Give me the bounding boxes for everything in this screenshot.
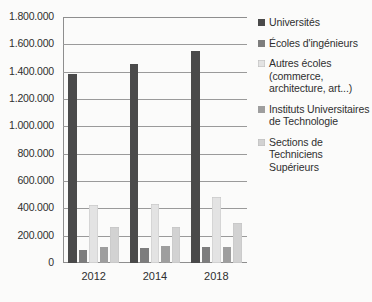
y-axis-tick-label: 0 <box>0 256 54 268</box>
bar-group-2014 <box>124 17 185 263</box>
bar <box>130 64 139 263</box>
y-axis-tick-label: 800.000 <box>0 147 54 159</box>
bar <box>172 227 181 263</box>
bar <box>223 247 232 263</box>
bar <box>110 227 119 263</box>
bar <box>79 250 88 263</box>
bar <box>202 247 211 263</box>
legend-item[interactable]: Écoles d'ingénieurs <box>258 37 370 50</box>
bar <box>68 74 77 263</box>
bar <box>140 248 149 263</box>
plot-area <box>63 17 247 263</box>
legend-label: Instituts Universitaires de Technologie <box>269 103 370 128</box>
legend-label: Écoles d'ingénieurs <box>269 37 358 50</box>
legend-swatch-icon <box>258 19 265 26</box>
bar <box>100 247 109 263</box>
legend-swatch-icon <box>258 40 265 47</box>
legend-item[interactable]: Sections de Techniciens Supérieurs <box>258 136 370 174</box>
x-axis-tick-label: 2012 <box>64 270 124 282</box>
legend-item[interactable]: Universités <box>258 16 370 29</box>
legend-label: Autres écoles (commerce, architecture, a… <box>269 57 370 95</box>
y-axis-tick-label: 600.000 <box>0 174 54 186</box>
bar <box>89 205 98 263</box>
chart-page: 1.800.0001.600.0001.400.0001.200.0001.00… <box>0 0 372 302</box>
chart-legend: UniversitésÉcoles d'ingénieursAutres éco… <box>258 16 370 181</box>
legend-item[interactable]: Instituts Universitaires de Technologie <box>258 103 370 128</box>
bar <box>161 246 170 263</box>
y-axis-tick-label: 400.000 <box>0 201 54 213</box>
x-axis-tick-label: 2014 <box>125 270 185 282</box>
legend-label: Sections de Techniciens Supérieurs <box>269 136 370 174</box>
bar-group-2018 <box>186 17 247 263</box>
legend-swatch-icon <box>258 60 265 67</box>
y-axis-tick-label: 1.200.000 <box>0 92 54 104</box>
bar <box>233 223 242 263</box>
y-axis-tick-label: 200.000 <box>0 229 54 241</box>
y-axis-tick-label: 1.000.000 <box>0 119 54 131</box>
y-axis-tick-label: 1.400.000 <box>0 65 54 77</box>
bar <box>212 197 221 263</box>
legend-label: Universités <box>269 16 320 29</box>
legend-swatch-icon <box>258 106 265 113</box>
x-axis-tick-label: 2018 <box>186 270 246 282</box>
y-axis-tick-label: 1.600.000 <box>0 37 54 49</box>
bar <box>151 204 160 263</box>
bar <box>191 51 200 263</box>
bar-group-2012 <box>63 17 124 263</box>
y-axis-tick-label: 1.800.000 <box>0 10 54 22</box>
legend-item[interactable]: Autres écoles (commerce, architecture, a… <box>258 57 370 95</box>
legend-swatch-icon <box>258 139 265 146</box>
